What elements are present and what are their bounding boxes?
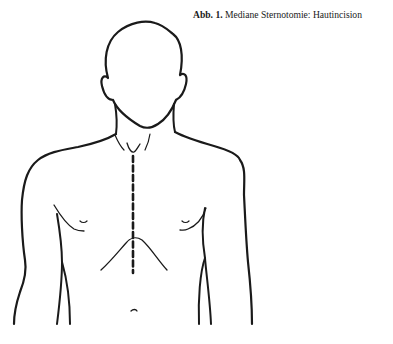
- nipple-right: [182, 221, 189, 223]
- inner-arm-right: [203, 208, 211, 324]
- neck-right: [173, 104, 175, 132]
- inner-arm-right-2: [199, 258, 205, 324]
- nipple-left: [80, 221, 87, 223]
- sternal-notch: [127, 143, 140, 152]
- anatomy-illustration: [0, 0, 393, 344]
- inner-arm-left: [57, 214, 62, 324]
- neck-muscle-right: [145, 134, 150, 150]
- neck-left: [115, 104, 117, 134]
- shoulder-right: [175, 132, 252, 324]
- neck-muscle-left: [115, 135, 124, 150]
- shoulder-left: [14, 134, 116, 324]
- navel: [131, 310, 137, 312]
- inner-arm-left-2: [62, 262, 70, 324]
